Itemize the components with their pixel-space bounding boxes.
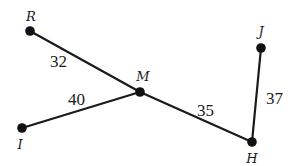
point-i [17, 123, 27, 133]
geometry-diagram: 32403537RMIHJ [0, 0, 300, 166]
point-j [256, 43, 266, 53]
point-label-r: R [25, 9, 36, 24]
point-label-h: H [245, 151, 258, 166]
segment-length-label: 35 [197, 101, 214, 120]
point-m [135, 87, 145, 97]
segments [22, 31, 261, 142]
labels: 32403537RMIHJ [16, 9, 283, 166]
segment-mh [140, 92, 252, 142]
point-label-m: M [135, 69, 150, 84]
segment-length-label: 32 [50, 52, 67, 71]
point-label-i: I [16, 137, 23, 152]
point-h [247, 137, 257, 147]
point-r [25, 26, 35, 36]
segment-rm [30, 31, 140, 92]
segment-length-label: 37 [266, 89, 284, 108]
segment-hj [252, 48, 261, 142]
segment-length-label: 40 [68, 90, 85, 109]
point-label-j: J [255, 24, 264, 39]
